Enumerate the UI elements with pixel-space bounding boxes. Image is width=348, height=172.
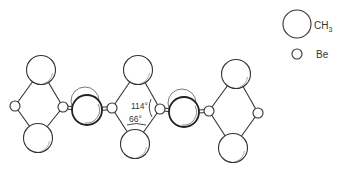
angle-label-114: 114° xyxy=(131,101,148,111)
methyl-group xyxy=(27,56,56,85)
beryllium-atom xyxy=(204,106,214,116)
methyl-group xyxy=(222,60,251,89)
beryllium-atom xyxy=(58,102,68,112)
beryllium-methyl-chain-diagram: 114° 66° CH3 Be xyxy=(0,0,348,172)
methyl-group xyxy=(121,130,150,159)
legend-ch3-symbol xyxy=(283,10,311,38)
legend-ch3-label: CH3 xyxy=(314,20,332,33)
legend-be-symbol xyxy=(292,49,302,59)
beryllium-atom xyxy=(155,104,165,114)
angle-label-66: 66° xyxy=(129,114,142,124)
beryllium-atom xyxy=(10,101,20,111)
methyl-group xyxy=(24,124,53,153)
bridge-methyl xyxy=(169,97,199,127)
methyl-group xyxy=(124,56,153,85)
legend-be-label: Be xyxy=(316,49,329,60)
legend: CH3 Be xyxy=(283,10,332,60)
beryllium-atom xyxy=(107,103,117,113)
bridge-methyl xyxy=(72,95,102,125)
methyl-group xyxy=(219,134,248,163)
angle-annotations: 114° 66° xyxy=(127,99,152,125)
angle-arc-114 xyxy=(149,99,152,117)
beryllium-atom xyxy=(253,108,263,118)
